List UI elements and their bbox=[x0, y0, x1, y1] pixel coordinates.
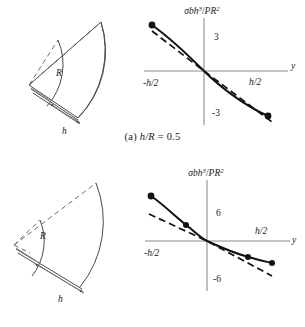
plot-b-series-exact bbox=[151, 196, 272, 263]
plot-a-ytick-positive: 3 bbox=[214, 32, 219, 42]
plot-a-marker-left bbox=[149, 22, 156, 29]
caption-a-ratio: h/R bbox=[140, 131, 155, 142]
panel-b: R h bbox=[0, 163, 305, 326]
dim-h-dot-left-b bbox=[36, 264, 39, 267]
plot-b-marker-4 bbox=[269, 260, 275, 266]
wedge-diagram-b: R h bbox=[14, 183, 103, 304]
wedge-label-R-b: R bbox=[39, 231, 46, 241]
panel-a: R h bbox=[0, 0, 305, 163]
wedge-radius-top-dashed-b bbox=[14, 183, 96, 245]
plot-b: σbh3/PR2 6 -6 -h/2 h/2 y bbox=[144, 167, 297, 292]
plot-b-marker-2 bbox=[183, 222, 189, 228]
plot-b-xtick-left: -h/2 bbox=[144, 248, 160, 258]
wedge-edge-lower-a bbox=[31, 89, 78, 120]
plot-a-marker-right bbox=[265, 113, 272, 120]
plot-a-ytick-negative: -3 bbox=[212, 108, 220, 118]
plot-a: σbh3/PR2 3 -3 -h/2 h/2 y bbox=[143, 5, 296, 126]
plot-b-xtick-right: h/2 bbox=[255, 226, 267, 236]
svg-text:σbh3/PR2: σbh3/PR2 bbox=[188, 167, 224, 179]
plot-b-ylabel-R-exp: 2 bbox=[220, 167, 224, 174]
plot-a-ylabel: σbh3/PR2 bbox=[184, 5, 220, 17]
plot-a-xtick-left: -h/2 bbox=[143, 78, 159, 88]
wedge-outline-a bbox=[29, 22, 105, 118]
plot-a-ylabel-R-exp: 2 bbox=[216, 5, 220, 12]
plot-b-xlabel: y bbox=[291, 235, 297, 245]
caption-a-equals: = bbox=[158, 131, 164, 142]
wedge-inner-radius-dashed-a bbox=[29, 40, 58, 85]
panel-b-graphics: R h bbox=[0, 163, 305, 326]
plot-a-xlabel: y bbox=[290, 61, 296, 71]
caption-a: (a) h/R = 0.5 bbox=[0, 131, 305, 142]
caption-a-value: 0.5 bbox=[167, 131, 181, 142]
wedge-outer-arc-a bbox=[78, 22, 106, 118]
plot-b-marker-3 bbox=[245, 254, 251, 260]
plot-b-ylabel: σbh3/PR2 bbox=[188, 167, 224, 179]
plot-b-ytick-positive: 6 bbox=[216, 208, 221, 218]
dim-h-dot-left-a bbox=[51, 104, 54, 107]
wedge-label-h-b: h bbox=[58, 294, 63, 304]
plot-a-xtick-right: h/2 bbox=[249, 77, 261, 87]
dim-h-dot-right-a bbox=[77, 121, 80, 124]
plot-b-series-approximate bbox=[149, 214, 272, 276]
plot-b-marker-1 bbox=[148, 193, 155, 200]
plot-b-ytick-negative: -6 bbox=[213, 274, 221, 284]
svg-text:σbh3/PR2: σbh3/PR2 bbox=[184, 5, 220, 17]
caption-a-prefix: (a) bbox=[125, 131, 137, 142]
wedge-label-R-a: R bbox=[55, 68, 62, 78]
dim-h-dot-right-b bbox=[80, 290, 83, 293]
wedge-diagram-a: R h bbox=[29, 22, 106, 136]
wedge-edge-lower-b bbox=[16, 249, 82, 289]
wedge-inner-radius-dashed-b bbox=[14, 220, 40, 245]
figure-root: R h bbox=[0, 0, 305, 327]
wedge-outer-arc-b bbox=[80, 183, 103, 287]
